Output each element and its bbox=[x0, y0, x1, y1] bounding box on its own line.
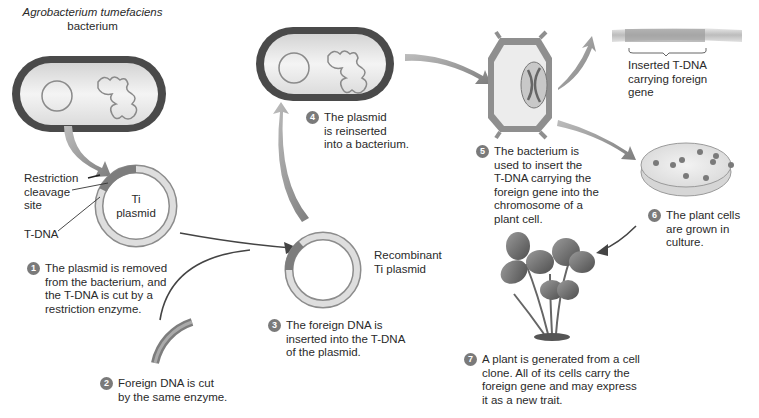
ti-plasmid-label: Ti plasmid bbox=[112, 193, 160, 220]
step-text: The bacterium is used to insert the T-DN… bbox=[494, 145, 599, 226]
step-text: The plasmid is reinserted into a bacteri… bbox=[324, 111, 409, 152]
arrow-step1 bbox=[64, 126, 111, 177]
step-badge: 7 bbox=[464, 353, 477, 366]
bacterium-word-label: bacterium bbox=[20, 20, 165, 34]
recombinant-label: Recombinant Ti plasmid bbox=[374, 249, 442, 276]
arrow-step4 bbox=[273, 102, 309, 222]
foreign-dna-fragment bbox=[155, 322, 192, 363]
plant-cell bbox=[488, 32, 552, 138]
step-text: Foreign DNA is cut by the same enzyme. bbox=[118, 377, 227, 404]
bacterium-species-label: Agrobacterium tumefaciens bbox=[20, 6, 165, 20]
petri-dish bbox=[641, 143, 734, 196]
step-badge: 1 bbox=[27, 262, 40, 275]
step-badge: 3 bbox=[268, 319, 281, 332]
step-text: The plant cells are grown in culture. bbox=[666, 209, 740, 250]
step-text: The foreign DNA is inserted into the T-D… bbox=[286, 319, 405, 360]
bacterium-2 bbox=[256, 27, 394, 101]
bacterium-1 bbox=[12, 56, 166, 132]
restriction-site-label: Restriction cleavage site bbox=[24, 172, 78, 213]
step-badge: 2 bbox=[100, 377, 113, 390]
step-badge: 5 bbox=[476, 145, 489, 158]
tdna-label: T-DNA bbox=[24, 228, 59, 242]
step-text: A plant is generated from a cell clone. … bbox=[482, 353, 640, 407]
step-text: The plasmid is removed from the bacteriu… bbox=[45, 262, 167, 316]
recombinant-plasmid bbox=[289, 236, 357, 304]
inserted-tdna-label: Inserted T-DNA carrying foreign gene bbox=[628, 59, 707, 100]
chromosome-inserted-tdna bbox=[612, 28, 742, 56]
plant bbox=[496, 232, 595, 341]
step-badge: 4 bbox=[306, 111, 319, 124]
step-badge: 6 bbox=[648, 209, 661, 222]
